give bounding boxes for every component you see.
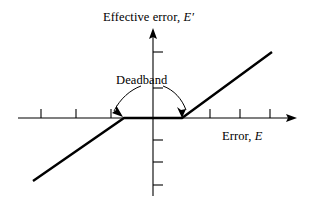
deadband-figure: Effective error, E′ Error, E Deadband <box>0 0 310 204</box>
x-axis-label-prefix: Error, <box>222 129 255 143</box>
x-axis-label: Error, E <box>222 130 263 143</box>
y-axis-label-prefix: Effective error, <box>103 10 183 24</box>
deadband-right-leader-line <box>163 86 186 110</box>
deadband-left-arrow-icon <box>112 105 123 117</box>
deadband-annotation-label: Deadband <box>116 74 167 87</box>
y-axis-label-prime: ′ <box>191 10 194 24</box>
y-axis-label: Effective error, E′ <box>103 11 194 24</box>
deadband-left-leader-line <box>114 86 141 111</box>
figure-canvas <box>0 0 310 204</box>
x-axis-label-variable: E <box>255 129 263 143</box>
